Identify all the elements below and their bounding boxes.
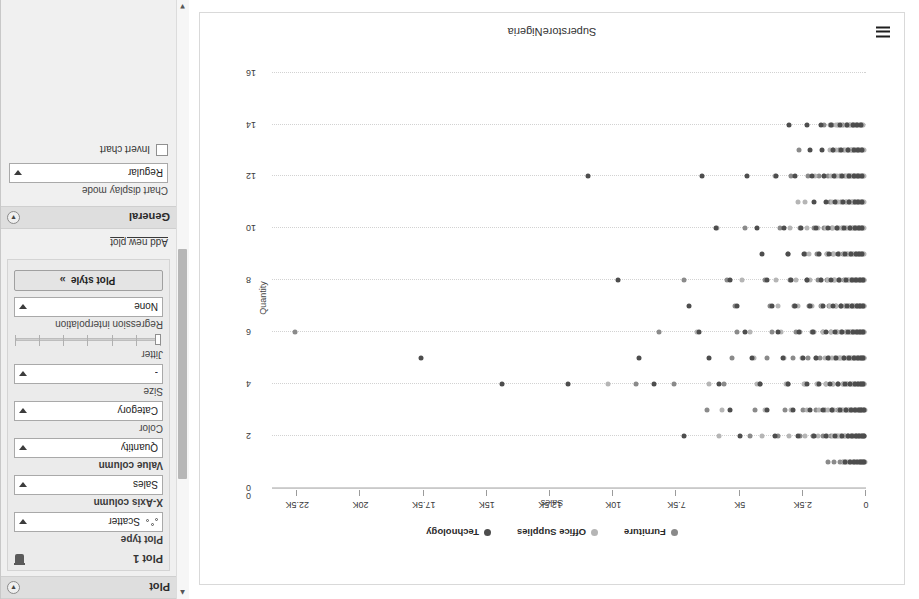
scatter-point[interactable] — [805, 278, 810, 283]
scatter-point[interactable] — [823, 434, 828, 439]
scatter-point[interactable] — [636, 356, 641, 361]
legend-item[interactable]: Furniture — [624, 527, 678, 538]
chart-display-mode-dropdown[interactable]: Regular — [9, 163, 168, 183]
scatter-point[interactable] — [814, 226, 819, 231]
scatter-point[interactable] — [838, 304, 843, 309]
scatter-point[interactable] — [821, 304, 826, 309]
scatter-point[interactable] — [780, 356, 785, 361]
size-dropdown[interactable]: - — [14, 364, 163, 384]
scatter-point[interactable] — [760, 434, 765, 439]
scatter-point[interactable] — [795, 434, 800, 439]
scatter-point[interactable] — [735, 304, 740, 309]
scatter-point[interactable] — [852, 382, 857, 387]
scatter-point[interactable] — [797, 330, 802, 335]
scatter-point[interactable] — [788, 226, 793, 231]
scatter-point[interactable] — [781, 226, 786, 231]
scatter-point[interactable] — [793, 278, 798, 283]
scatter-point[interactable] — [849, 278, 854, 283]
scatter-point[interactable] — [760, 252, 765, 257]
scatter-point[interactable] — [727, 408, 732, 413]
scatter-point[interactable] — [793, 304, 798, 309]
scatter-point[interactable] — [843, 252, 848, 257]
scatter-point[interactable] — [827, 252, 832, 257]
scatter-point[interactable] — [774, 174, 779, 179]
scatter-point[interactable] — [775, 330, 780, 335]
scatter-point[interactable] — [707, 356, 712, 361]
scatter-point[interactable] — [833, 200, 838, 205]
scatter-point[interactable] — [851, 330, 856, 335]
scatter-point[interactable] — [765, 278, 770, 283]
scatter-point[interactable] — [832, 330, 837, 335]
scatter-point[interactable] — [853, 226, 858, 231]
scatter-point[interactable] — [851, 148, 856, 153]
hamburger-menu-icon[interactable] — [876, 27, 890, 38]
invert-chart-row[interactable]: Invert chart — [9, 144, 168, 156]
value-column-dropdown[interactable]: Quantity — [14, 438, 163, 458]
scatter-point[interactable] — [829, 278, 834, 283]
scatter-point[interactable] — [808, 408, 813, 413]
scatter-point[interactable] — [727, 278, 732, 283]
section-header-general[interactable]: General ▼ — [1, 206, 176, 229]
scatter-point[interactable] — [814, 356, 819, 361]
scatter-point[interactable] — [843, 382, 848, 387]
scatter-point[interactable] — [789, 278, 794, 283]
scatter-point[interactable] — [817, 382, 822, 387]
scatter-point[interactable] — [828, 382, 833, 387]
scatter-point[interactable] — [825, 356, 830, 361]
scatter-point[interactable] — [750, 356, 755, 361]
scatter-point[interactable] — [844, 278, 849, 283]
scatter-point[interactable] — [818, 122, 823, 127]
scatter-point[interactable] — [707, 382, 712, 387]
scatter-point[interactable] — [848, 226, 853, 231]
scatter-point[interactable] — [803, 200, 808, 205]
scatter-point[interactable] — [805, 356, 810, 361]
scatter-point[interactable] — [565, 382, 570, 387]
scatter-point[interactable] — [845, 148, 850, 153]
scatter-point[interactable] — [790, 356, 795, 361]
scatter-point[interactable] — [820, 148, 825, 153]
scatter-point[interactable] — [823, 200, 828, 205]
scatter-point[interactable] — [854, 304, 859, 309]
scatter-point[interactable] — [846, 330, 851, 335]
scatter-point[interactable] — [839, 148, 844, 153]
chevron-down-icon[interactable] — [19, 446, 27, 451]
scatter-point[interactable] — [747, 434, 752, 439]
color-dropdown[interactable]: Category — [14, 401, 163, 421]
scatter-point[interactable] — [852, 200, 857, 205]
scatter-point[interactable] — [851, 356, 856, 361]
scatter-point[interactable] — [845, 122, 850, 127]
scatter-point[interactable] — [606, 382, 611, 387]
scatter-point[interactable] — [790, 408, 795, 413]
legend-item[interactable]: Office Supplies — [517, 527, 598, 538]
chevron-circle-icon[interactable]: ▼ — [7, 211, 20, 224]
scatter-point[interactable] — [722, 382, 727, 387]
scatter-point[interactable] — [845, 304, 850, 309]
scatter-point[interactable] — [842, 226, 847, 231]
scatter-point[interactable] — [850, 434, 855, 439]
chevron-down-icon[interactable] — [19, 409, 27, 414]
scatter-point[interactable] — [292, 330, 297, 335]
scatter-point[interactable] — [773, 434, 778, 439]
scatter-point[interactable] — [816, 252, 821, 257]
scatter-point[interactable] — [776, 304, 781, 309]
section-header-plot[interactable]: Plot ▼ — [1, 576, 176, 599]
chevron-down-icon[interactable] — [19, 372, 27, 377]
scatter-point[interactable] — [800, 356, 805, 361]
scatter-point[interactable] — [735, 330, 740, 335]
jitter-slider-thumb[interactable] — [155, 334, 161, 345]
scatter-point[interactable] — [823, 330, 828, 335]
chevron-down-icon[interactable] — [19, 483, 27, 488]
scatter-point[interactable] — [785, 382, 790, 387]
scatter-point[interactable] — [832, 434, 837, 439]
caret-down-icon[interactable]: ▼ — [176, 0, 189, 13]
plot-style-button[interactable]: Plot style » — [14, 270, 163, 291]
scatter-point[interactable] — [842, 460, 847, 465]
scatter-point[interactable] — [832, 460, 837, 465]
scatter-point[interactable] — [765, 408, 770, 413]
scatter-point[interactable] — [830, 408, 835, 413]
scatter-point[interactable] — [853, 252, 858, 257]
scatter-point[interactable] — [757, 382, 762, 387]
jitter-slider[interactable] — [16, 334, 161, 346]
scatter-point[interactable] — [755, 226, 760, 231]
scatter-point[interactable] — [825, 226, 830, 231]
